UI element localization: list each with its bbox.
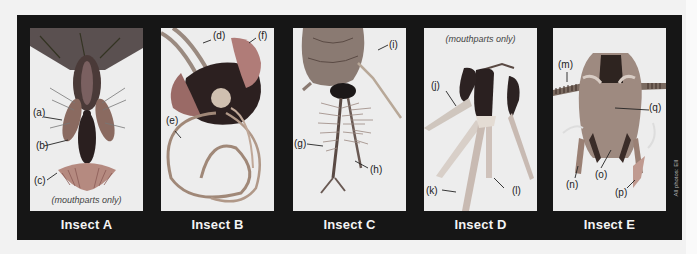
caption-insect-c: Insect C bbox=[293, 217, 406, 232]
label-b: (b) bbox=[36, 141, 48, 151]
insect-c-head-image bbox=[293, 28, 406, 211]
label-n: (n) bbox=[566, 180, 578, 190]
insect-d-photo: (mouthparts only) (j) (k) (l) bbox=[424, 28, 537, 211]
label-c: (c) bbox=[34, 176, 46, 186]
mouthparts-only-note: (mouthparts only) bbox=[30, 195, 143, 205]
insect-c-photo: (g) (h) (i) bbox=[293, 28, 406, 211]
insect-a-photo: (a) (b) (c) (mouthparts only) bbox=[30, 28, 143, 211]
label-p: (p) bbox=[615, 188, 627, 198]
label-g: (g) bbox=[294, 139, 306, 149]
insect-b-photo: (d) (e) (f) bbox=[161, 28, 274, 211]
label-k: (k) bbox=[426, 186, 438, 196]
label-d: (d) bbox=[213, 31, 225, 41]
insect-a-mouthparts-image bbox=[30, 28, 143, 211]
label-q: (q) bbox=[649, 103, 661, 113]
caption-insect-d: Insect D bbox=[424, 217, 537, 232]
label-e: (e) bbox=[166, 116, 178, 126]
label-f: (f) bbox=[258, 31, 267, 41]
label-o: (o) bbox=[595, 170, 607, 180]
insect-figure-panel: (a) (b) (c) (mouthparts only) Insect A (… bbox=[17, 15, 682, 240]
insect-e-photo: (m) (n) (o) (p) (q) bbox=[553, 28, 666, 211]
caption-insect-b: Insect B bbox=[161, 217, 274, 232]
photo-credit: All photos: EII bbox=[669, 155, 681, 205]
caption-insect-a: Insect A bbox=[30, 217, 143, 232]
insect-d-mouthparts-image bbox=[424, 28, 537, 211]
mouthparts-only-note-d: (mouthparts only) bbox=[424, 34, 537, 44]
label-j: (j) bbox=[431, 81, 440, 91]
label-l: (l) bbox=[512, 186, 521, 196]
page-margin bbox=[686, 0, 697, 254]
label-m: (m) bbox=[558, 60, 573, 70]
label-i: (i) bbox=[389, 40, 398, 50]
label-a: (a) bbox=[33, 108, 45, 118]
caption-insect-e: Insect E bbox=[553, 217, 666, 232]
label-h: (h) bbox=[370, 165, 382, 175]
